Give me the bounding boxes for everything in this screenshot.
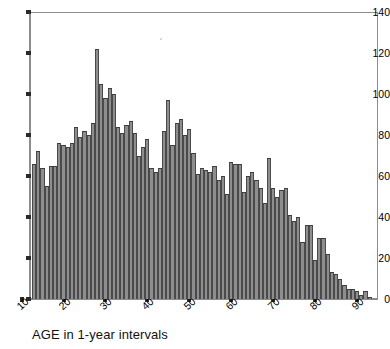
- histogram-figure: 020406080100120140 102030405060708090 AG…: [0, 0, 390, 349]
- bars-container: [30, 12, 378, 299]
- x-axis-caption: AGE in 1-year intervals: [32, 327, 168, 342]
- stray-speck: [160, 38, 162, 40]
- histogram-bar: [368, 297, 372, 299]
